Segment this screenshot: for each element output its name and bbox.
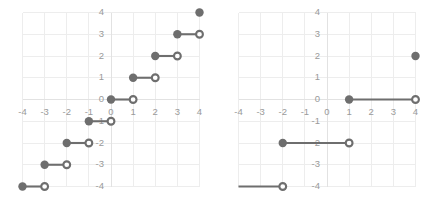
open-endpoint-marker <box>279 183 286 190</box>
closed-point-marker <box>195 8 203 16</box>
y-tick-label: 2 <box>99 50 104 61</box>
open-endpoint-marker <box>152 74 159 81</box>
x-tick-label: 0 <box>108 106 113 117</box>
x-tick-label: -3 <box>40 106 48 117</box>
closed-endpoint-marker <box>151 52 159 60</box>
x-tick-label: 3 <box>391 106 396 117</box>
x-tick-label: 4 <box>413 106 418 117</box>
y-tick-label: 2 <box>315 50 320 61</box>
open-endpoint-marker <box>85 140 92 147</box>
open-endpoint-marker <box>412 96 419 103</box>
closed-endpoint-marker <box>18 182 26 190</box>
y-tick-label: 3 <box>315 28 320 39</box>
open-endpoint-marker <box>41 183 48 190</box>
closed-endpoint-marker <box>85 117 93 125</box>
x-tick-label: 1 <box>346 106 351 117</box>
x-tick-label: -1 <box>85 106 93 117</box>
open-endpoint-marker <box>63 161 70 168</box>
x-tick-label: -2 <box>279 106 287 117</box>
closed-endpoint-marker <box>63 139 71 147</box>
closed-endpoint-marker <box>107 95 115 103</box>
open-endpoint-marker <box>174 53 181 60</box>
y-tick-label: -1 <box>312 115 320 126</box>
x-tick-label: 3 <box>175 106 180 117</box>
closed-endpoint-marker <box>40 161 48 169</box>
x-tick-label: -1 <box>301 106 309 117</box>
y-tick-label: 1 <box>315 71 320 82</box>
step-plot-left: -4-3-2-101234-4-3-2-101234 <box>0 0 216 199</box>
y-tick-label: -4 <box>312 180 320 191</box>
x-tick-label: 2 <box>369 106 374 117</box>
closed-point-marker <box>411 52 419 60</box>
x-tick-label: 1 <box>130 106 135 117</box>
open-endpoint-marker <box>108 118 115 125</box>
closed-endpoint-marker <box>129 74 137 82</box>
open-endpoint-marker <box>196 31 203 38</box>
y-tick-label: -3 <box>312 158 320 169</box>
y-tick-label: 4 <box>315 6 320 17</box>
figure-container: -4-3-2-101234-4-3-2-101234 -4-3-2-101234… <box>0 0 432 199</box>
closed-endpoint-marker <box>345 95 353 103</box>
step-plot-right: -4-3-2-101234-4-3-2-101234 <box>216 0 432 199</box>
y-tick-label: 1 <box>99 71 104 82</box>
x-tick-label: -3 <box>256 106 264 117</box>
closed-endpoint-marker <box>173 30 181 38</box>
x-tick-label: -4 <box>234 106 242 117</box>
x-tick-label: -4 <box>18 106 26 117</box>
open-endpoint-marker <box>130 96 137 103</box>
y-tick-label: -3 <box>96 158 104 169</box>
x-tick-label: 0 <box>324 106 329 117</box>
y-tick-label: 0 <box>99 93 104 104</box>
y-tick-label: 0 <box>315 93 320 104</box>
open-endpoint-marker <box>346 140 353 147</box>
closed-endpoint-marker <box>279 139 287 147</box>
y-tick-label: -4 <box>96 180 104 191</box>
x-tick-label: 4 <box>197 106 202 117</box>
y-tick-label: 4 <box>99 6 104 17</box>
y-tick-label: 3 <box>99 28 104 39</box>
y-tick-label: -2 <box>96 137 104 148</box>
chart-panel-right: -4-3-2-101234-4-3-2-101234 <box>216 0 432 199</box>
x-tick-labels: -4-3-2-101234 <box>234 106 418 117</box>
chart-panel-left: -4-3-2-101234-4-3-2-101234 <box>0 0 216 199</box>
x-tick-labels: -4-3-2-101234 <box>18 106 202 117</box>
x-tick-label: -2 <box>63 106 71 117</box>
x-tick-label: 2 <box>153 106 158 117</box>
